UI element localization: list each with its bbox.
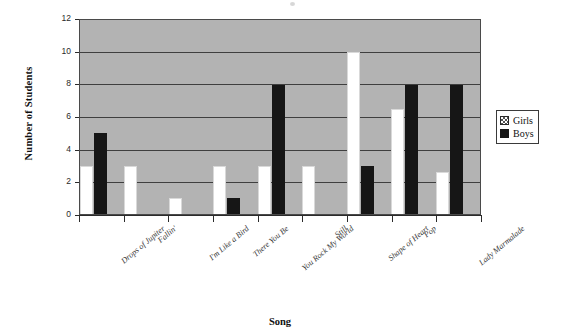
bar-girls: [347, 52, 360, 214]
x-axis-tick: [302, 215, 347, 223]
bar-girls: [391, 109, 404, 214]
scan-artifact-speck: [290, 2, 295, 6]
x-axis-category-label: Lady Marmalade: [477, 224, 526, 267]
solid-black-swatch-icon: [500, 129, 509, 138]
bar-girls: [124, 166, 137, 215]
bars-layer: [80, 20, 480, 214]
legend-label-boys: Boys: [513, 129, 534, 139]
bar-group: [391, 20, 435, 214]
bar-group: [258, 20, 302, 214]
x-axis-tick: [213, 215, 258, 223]
y-axis-tick-label: 4: [66, 144, 71, 154]
chart-legend: Girls Boys: [496, 110, 539, 144]
bar-group: [169, 20, 213, 214]
x-axis-tick: [258, 215, 303, 223]
legend-item-boys: Boys: [500, 127, 534, 140]
y-axis-tick-label: 6: [66, 111, 71, 121]
y-axis-tick-label: 0: [66, 209, 71, 219]
bar-boys: [227, 198, 240, 214]
bar-group: [213, 20, 257, 214]
x-axis-tick: [79, 215, 124, 223]
bar-girls: [213, 166, 226, 215]
legend-label-girls: Girls: [513, 116, 533, 126]
y-axis-tick-label: 10: [62, 46, 71, 56]
x-axis-tick: [436, 215, 481, 223]
bar-girls: [258, 166, 271, 215]
hatched-swatch-icon: [500, 116, 509, 125]
bar-boys: [405, 85, 418, 214]
bar-boys: [450, 85, 463, 214]
bar-group: [80, 20, 124, 214]
x-axis-tick: [392, 215, 437, 223]
x-axis-ticks: [79, 215, 481, 223]
bar-boys: [94, 133, 107, 214]
y-axis-tick-label: 12: [62, 13, 71, 23]
bar-group: [124, 20, 168, 214]
x-axis-category-label: There You Be: [251, 224, 290, 259]
bar-girls: [80, 166, 93, 215]
x-axis-tick: [168, 215, 213, 223]
bar-girls: [302, 166, 315, 215]
legend-item-girls: Girls: [500, 114, 534, 127]
bar-group: [302, 20, 346, 214]
bar-girls: [169, 198, 182, 214]
bar-girls: [436, 172, 449, 214]
bar-boys: [272, 85, 285, 214]
x-axis-category-labels: Drops of JupiterFallin'I'm Like a BirdTh…: [79, 224, 481, 304]
bar-group: [436, 20, 480, 214]
x-axis-category-label: I'm Like a Bird: [207, 224, 250, 262]
plot-area: [79, 19, 481, 215]
x-axis-tick: [347, 215, 392, 223]
y-axis-tick-label: 2: [66, 176, 71, 186]
bar-group: [347, 20, 391, 214]
x-axis-tick: [124, 215, 169, 223]
x-axis-title: Song: [79, 316, 481, 327]
y-axis-tick-label: 8: [66, 78, 71, 88]
y-axis: 024681012: [0, 19, 79, 215]
bar-chart: Number of Students 024681012 Drops of Ju…: [0, 0, 561, 335]
x-axis-category-label: Drops of Jupiter: [119, 224, 166, 265]
bar-boys: [361, 166, 374, 215]
